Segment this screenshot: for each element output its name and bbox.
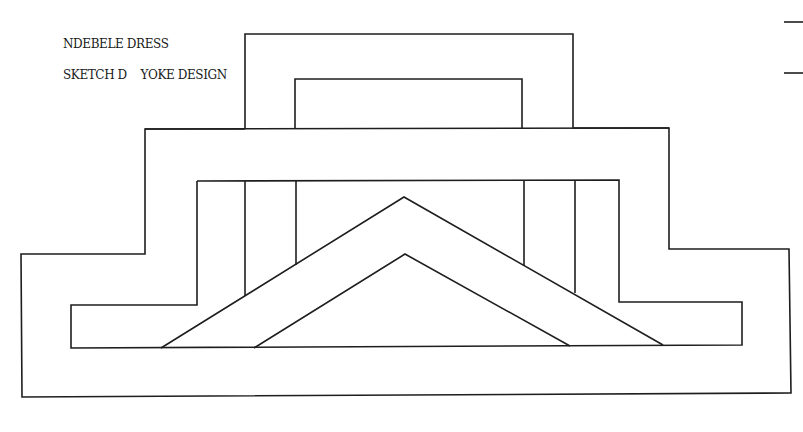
upper-band-line — [145, 128, 669, 129]
inner-triangle — [254, 254, 570, 348]
outer-triangle — [161, 197, 663, 348]
yoke-design-drawing — [0, 0, 803, 432]
inner-stepped-outline — [71, 180, 742, 348]
outer-stepped-outline — [21, 34, 791, 397]
inner-top-box — [295, 79, 522, 129]
